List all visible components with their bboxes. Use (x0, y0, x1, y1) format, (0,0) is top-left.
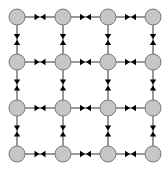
arrowhead-forward-icon (150, 80, 156, 85)
node-n-1-4 (145, 9, 161, 25)
arrowhead-backward-icon (105, 86, 111, 91)
arrowhead-backward-icon (60, 40, 66, 45)
edge-n-1-3-n-1-4 (116, 14, 145, 20)
node-n-4-2 (55, 146, 71, 162)
arrowhead-forward-icon (125, 105, 130, 111)
arrowhead-forward-icon (80, 59, 85, 65)
node-n-1-3 (100, 9, 116, 25)
arrowhead-backward-icon (41, 14, 46, 20)
arrowhead-forward-icon (125, 14, 130, 20)
arrowhead-forward-icon (105, 126, 111, 131)
node-n-2-2 (55, 54, 71, 70)
node-n-2-1 (9, 54, 25, 70)
edge-n-1-2-n-2-2 (60, 25, 66, 54)
arrowhead-backward-icon (86, 105, 91, 111)
edge-n-1-3-n-2-3 (105, 25, 111, 54)
arrowhead-backward-icon (131, 151, 136, 157)
edge-n-2-2-n-3-2 (60, 70, 66, 100)
arrowhead-backward-icon (14, 40, 20, 45)
arrowhead-backward-icon (41, 105, 46, 111)
edge-n-2-1-n-2-2 (25, 59, 55, 65)
edge-n-4-2-n-4-3 (71, 151, 100, 157)
arrowhead-backward-icon (60, 132, 66, 137)
edge-n-1-1-n-2-1 (14, 25, 20, 54)
edge-n-2-3-n-2-4 (116, 59, 145, 65)
arrowhead-backward-icon (86, 59, 91, 65)
node-n-2-4 (145, 54, 161, 70)
edge-n-2-1-n-3-1 (14, 70, 20, 100)
arrowhead-forward-icon (35, 151, 40, 157)
arrowhead-forward-icon (80, 14, 85, 20)
node-n-3-4 (145, 100, 161, 116)
arrowhead-backward-icon (105, 40, 111, 45)
arrowhead-backward-icon (131, 105, 136, 111)
node-n-3-2 (55, 100, 71, 116)
arrowhead-forward-icon (60, 80, 66, 85)
edge-n-3-2-n-3-3 (71, 105, 100, 111)
grid-graph-diagram (0, 0, 168, 170)
node-n-1-2 (55, 9, 71, 25)
arrowhead-forward-icon (14, 34, 20, 39)
arrowhead-forward-icon (35, 14, 40, 20)
node-n-2-3 (100, 54, 116, 70)
arrowhead-forward-icon (105, 34, 111, 39)
arrowhead-forward-icon (14, 126, 20, 131)
arrowhead-forward-icon (14, 80, 20, 85)
edge-n-1-2-n-1-3 (71, 14, 100, 20)
arrowhead-forward-icon (80, 105, 85, 111)
arrowhead-backward-icon (60, 86, 66, 91)
arrowhead-backward-icon (14, 132, 20, 137)
arrowhead-forward-icon (125, 59, 130, 65)
arrowhead-backward-icon (150, 86, 156, 91)
arrowhead-forward-icon (35, 105, 40, 111)
nodes-layer (9, 9, 161, 162)
arrowhead-forward-icon (125, 151, 130, 157)
edge-n-2-4-n-3-4 (150, 70, 156, 100)
arrowhead-backward-icon (86, 14, 91, 20)
arrowhead-forward-icon (150, 34, 156, 39)
arrowhead-forward-icon (35, 59, 40, 65)
arrowhead-backward-icon (131, 14, 136, 20)
arrowhead-backward-icon (105, 132, 111, 137)
edge-n-1-4-n-2-4 (150, 25, 156, 54)
edge-n-1-1-n-1-2 (25, 14, 55, 20)
edge-n-3-1-n-4-1 (14, 116, 20, 146)
edge-n-3-1-n-3-2 (25, 105, 55, 111)
arrowhead-backward-icon (14, 86, 20, 91)
edge-n-3-2-n-4-2 (60, 116, 66, 146)
edge-n-2-2-n-2-3 (71, 59, 100, 65)
arrowhead-backward-icon (150, 132, 156, 137)
node-n-4-3 (100, 146, 116, 162)
arrowhead-backward-icon (131, 59, 136, 65)
edge-n-4-1-n-4-2 (25, 151, 55, 157)
arrowhead-forward-icon (105, 80, 111, 85)
arrowhead-backward-icon (41, 151, 46, 157)
edge-n-3-3-n-4-3 (105, 116, 111, 146)
edge-n-2-3-n-3-3 (105, 70, 111, 100)
arrowhead-backward-icon (86, 151, 91, 157)
node-n-3-1 (9, 100, 25, 116)
node-n-4-4 (145, 146, 161, 162)
node-n-4-1 (9, 146, 25, 162)
edges-layer (14, 14, 156, 157)
edge-n-3-3-n-3-4 (116, 105, 145, 111)
arrowhead-forward-icon (150, 126, 156, 131)
arrowhead-backward-icon (41, 59, 46, 65)
arrowhead-forward-icon (80, 151, 85, 157)
edge-n-4-3-n-4-4 (116, 151, 145, 157)
edge-n-3-4-n-4-4 (150, 116, 156, 146)
node-n-1-1 (9, 9, 25, 25)
arrowhead-forward-icon (60, 34, 66, 39)
arrowhead-backward-icon (150, 40, 156, 45)
node-n-3-3 (100, 100, 116, 116)
arrowhead-forward-icon (60, 126, 66, 131)
